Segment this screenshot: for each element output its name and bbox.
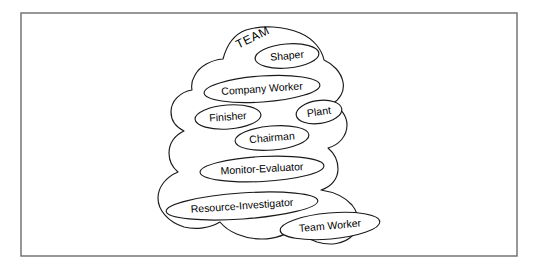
team-roles-figure: ShaperCompany WorkerFinisherPlantChairma… xyxy=(0,0,533,270)
team-roles-diagram: ShaperCompany WorkerFinisherPlantChairma… xyxy=(0,0,533,270)
